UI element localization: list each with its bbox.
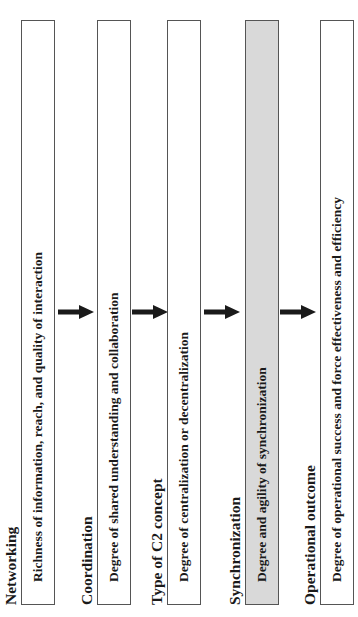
flow-diagram: Networking Richness of information, reac… <box>0 0 358 617</box>
stage-box-c2-concept: Degree of centralization or decentraliza… <box>167 20 201 605</box>
arrow-down-icon <box>280 305 316 319</box>
stage-description-networking: Richness of information, reach, and qual… <box>30 252 46 582</box>
stage-description-coordination: Degree of shared understanding and colla… <box>106 293 122 582</box>
stage-title-operational-outcome: Operational outcome <box>301 465 319 605</box>
stage-box-networking: Richness of information, reach, and qual… <box>21 20 55 605</box>
arrow-down-icon <box>58 305 94 319</box>
stage-description-synchronization: Degree and agility of synchronization <box>254 367 270 582</box>
stage-box-operational-outcome: Degree of operational success and force … <box>320 20 354 605</box>
arrow-down-icon <box>204 305 240 319</box>
stage-title-c2-concept: Type of C2 concept <box>148 478 166 605</box>
stage-title-coordination: Coordination <box>78 516 96 605</box>
stage-description-c2-concept: Degree of centralization or decentraliza… <box>176 332 192 582</box>
stage-box-synchronization: Degree and agility of synchronization <box>245 20 279 605</box>
stage-title-synchronization: Synchronization <box>226 497 244 605</box>
arrow-down-icon <box>132 305 168 319</box>
stage-box-coordination: Degree of shared understanding and colla… <box>97 20 131 605</box>
stage-title-networking: Networking <box>2 527 20 605</box>
stage-description-operational-outcome: Degree of operational success and force … <box>329 197 345 582</box>
